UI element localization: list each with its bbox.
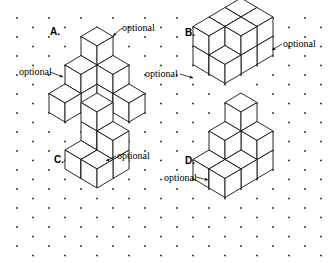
optional-annotation: optional	[164, 172, 197, 183]
figure-d	[193, 93, 273, 198]
figure-label-c: C.	[54, 154, 64, 165]
figure-label-b: B.	[185, 27, 195, 38]
isometric-cube-diagram: A.optionaloptionalB.optionaloptionalC.op…	[0, 0, 328, 263]
optional-annotation: optional	[283, 38, 316, 49]
cube-figures	[0, 0, 328, 263]
figure-label-d: D.	[185, 155, 195, 166]
figure-b	[193, 0, 273, 84]
optional-annotation: optional	[122, 22, 155, 33]
optional-annotation: optional	[117, 150, 150, 161]
optional-annotation: optional	[145, 68, 178, 79]
figure-label-a: A.	[50, 26, 60, 37]
optional-annotation: optional	[19, 66, 52, 77]
